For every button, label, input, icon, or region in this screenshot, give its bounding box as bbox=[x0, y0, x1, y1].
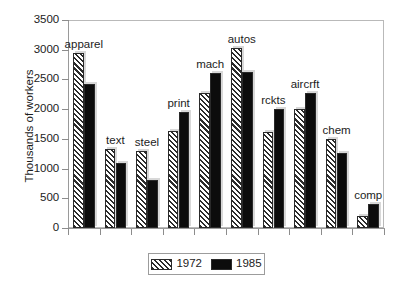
y-axis-title: Thousands of workers bbox=[23, 36, 35, 216]
bar-print-1985 bbox=[179, 112, 190, 228]
group-label-apparel: apparel bbox=[54, 38, 114, 50]
group-label-aircrft: aircrft bbox=[275, 78, 335, 90]
chart-legend: 1972 1985 bbox=[148, 253, 265, 275]
bar-steel-1985 bbox=[147, 180, 158, 228]
bar-face bbox=[147, 180, 158, 228]
y-tick-label: 3500 bbox=[34, 14, 59, 26]
x-tick-mark bbox=[131, 229, 132, 235]
x-tick-mark bbox=[194, 229, 195, 235]
bar-face bbox=[116, 163, 127, 228]
bar-face bbox=[242, 72, 253, 228]
legend-label-1985: 1985 bbox=[236, 258, 262, 270]
bar-apparel-1985 bbox=[84, 84, 95, 228]
bar-rckts-1972 bbox=[263, 132, 274, 228]
bar-autos-1985 bbox=[242, 72, 253, 228]
y-tick-mark bbox=[62, 139, 69, 140]
y-tick-mark bbox=[62, 20, 69, 21]
bar-face bbox=[305, 93, 316, 228]
bar-comp-1972 bbox=[357, 216, 368, 228]
x-tick-mark bbox=[384, 229, 385, 235]
y-tick-label: 2500 bbox=[34, 73, 59, 85]
bar-autos-1972 bbox=[231, 48, 242, 228]
x-tick-mark bbox=[352, 229, 353, 235]
x-tick-mark bbox=[68, 229, 69, 235]
legend-swatch-1985-icon bbox=[211, 259, 232, 270]
bar-mach-1972 bbox=[199, 93, 210, 228]
bar-face bbox=[326, 139, 337, 228]
bar-aircrft-1985 bbox=[305, 93, 316, 228]
legend-label-1972: 1972 bbox=[176, 258, 202, 270]
bar-print-1972 bbox=[168, 131, 179, 228]
y-tick-label: 0 bbox=[53, 222, 59, 234]
bar-steel-1972 bbox=[136, 151, 147, 228]
bar-face bbox=[263, 132, 274, 228]
y-tick-mark bbox=[62, 109, 69, 110]
bar-face bbox=[199, 93, 210, 228]
bar-chart-figure: Thousands of workers 0500100015002000250… bbox=[0, 0, 395, 298]
bar-face bbox=[294, 109, 305, 228]
y-tick-mark bbox=[62, 50, 69, 51]
bar-chem-1972 bbox=[326, 139, 337, 228]
y-tick-label: 1000 bbox=[34, 163, 59, 175]
x-tick-mark bbox=[163, 229, 164, 235]
bar-face bbox=[231, 48, 242, 228]
legend-entry-1972: 1972 bbox=[151, 258, 202, 270]
bar-rckts-1985 bbox=[274, 109, 285, 228]
bar-face bbox=[357, 216, 368, 228]
y-tick-mark bbox=[62, 169, 69, 170]
bar-face bbox=[368, 204, 379, 228]
bar-face bbox=[210, 73, 221, 228]
x-tick-mark bbox=[321, 229, 322, 235]
bar-apparel-1972 bbox=[73, 53, 84, 228]
group-label-autos: autos bbox=[212, 33, 272, 45]
y-tick-label: 500 bbox=[40, 192, 59, 204]
legend-swatch-1972-icon bbox=[151, 259, 172, 270]
x-tick-mark bbox=[289, 229, 290, 235]
y-tick-mark bbox=[62, 198, 69, 199]
bar-text-1972 bbox=[105, 149, 116, 228]
bar-face bbox=[168, 131, 179, 228]
x-tick-mark bbox=[100, 229, 101, 235]
bar-face bbox=[84, 84, 95, 228]
bar-face bbox=[337, 153, 348, 228]
bar-face bbox=[105, 149, 116, 228]
bar-face bbox=[179, 112, 190, 228]
y-tick-label: 2000 bbox=[34, 103, 59, 115]
x-tick-mark bbox=[226, 229, 227, 235]
bar-aircrft-1972 bbox=[294, 109, 305, 228]
bar-comp-1985 bbox=[368, 204, 379, 228]
y-tick-label: 1500 bbox=[34, 133, 59, 145]
bar-chem-1985 bbox=[337, 153, 348, 228]
bar-mach-1985 bbox=[210, 73, 221, 228]
x-tick-mark bbox=[258, 229, 259, 235]
bar-face bbox=[274, 109, 285, 228]
bar-text-1985 bbox=[116, 163, 127, 228]
bar-face bbox=[136, 151, 147, 228]
legend-entry-1985: 1985 bbox=[211, 258, 262, 270]
bar-face bbox=[73, 53, 84, 228]
y-tick-mark bbox=[62, 79, 69, 80]
